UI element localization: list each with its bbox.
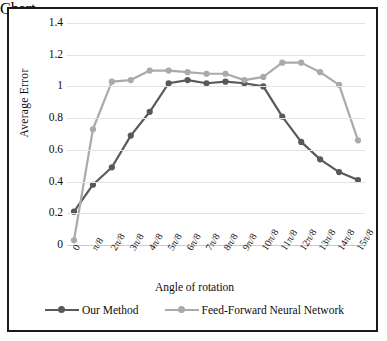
data-point	[298, 139, 304, 145]
gridline	[67, 118, 365, 119]
data-point	[222, 79, 228, 85]
y-tick-label: 0	[23, 239, 63, 251]
data-point	[128, 132, 134, 138]
data-point	[128, 77, 134, 83]
chart-legend: Our MethodFeed-Forward Neural Network	[9, 304, 380, 316]
data-point	[317, 69, 323, 75]
gridline	[67, 182, 365, 183]
y-tick-label: 1.2	[23, 49, 63, 61]
data-point	[355, 137, 361, 143]
legend-swatch-icon	[165, 305, 199, 315]
y-tick-label: 1.4	[23, 17, 63, 29]
x-axis-title: Angle of rotation	[9, 281, 380, 293]
data-point	[203, 71, 209, 77]
data-point	[260, 74, 266, 80]
gridline	[67, 55, 365, 56]
data-point	[109, 164, 115, 170]
data-point	[147, 67, 153, 73]
series-line	[74, 80, 358, 212]
data-point	[298, 60, 304, 66]
data-point	[336, 169, 342, 175]
y-axis-tick-labels: 00.20.40.60.811.21.4	[21, 23, 63, 245]
legend-item-1[interactable]: Our Method	[45, 304, 139, 316]
data-point	[166, 80, 172, 86]
data-point	[109, 79, 115, 85]
data-point	[279, 60, 285, 66]
gridline	[67, 86, 365, 87]
legend-label: Our Method	[82, 304, 139, 316]
series-1	[71, 77, 361, 215]
data-point	[203, 80, 209, 86]
data-point	[185, 69, 191, 75]
y-tick-label: 1	[23, 81, 63, 93]
data-point	[241, 77, 247, 83]
y-tick-label: 0.6	[23, 144, 63, 156]
y-tick-label: 0.2	[23, 208, 63, 220]
data-point	[166, 67, 172, 73]
legend-item-2[interactable]: Feed-Forward Neural Network	[165, 304, 344, 316]
legend-swatch-icon	[45, 305, 79, 315]
y-tick-label: 0.4	[23, 176, 63, 188]
gridline	[67, 213, 365, 214]
data-point	[90, 126, 96, 132]
data-point	[317, 156, 323, 162]
data-point	[185, 77, 191, 83]
legend-label: Feed-Forward Neural Network	[202, 304, 344, 316]
y-tick-label: 0.8	[23, 112, 63, 124]
chart-figure: Average Error 00.20.40.60.811.21.4 0π/82…	[7, 7, 378, 332]
gridline	[67, 150, 365, 151]
gridline	[67, 23, 365, 24]
data-point	[147, 109, 153, 115]
data-point	[222, 71, 228, 77]
plot-area	[67, 23, 365, 245]
series-lines	[67, 23, 365, 245]
data-point	[90, 182, 96, 188]
